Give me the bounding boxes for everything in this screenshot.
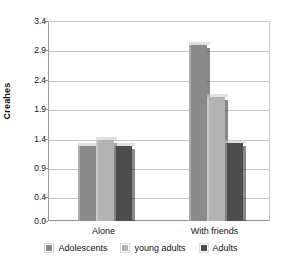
bar-chart: Creahes 0.00.40.91.41.92.42.93.4 AloneWi… [0,0,282,264]
legend-label: Adolescents [58,243,107,253]
y-axis-tick-label: 2.4 [18,76,46,85]
bar-side-shadow [243,146,246,221]
bar-highlight [114,146,116,221]
y-axis-tick-mark [44,221,48,222]
y-axis-tick-label: 1.4 [18,135,46,144]
y-axis-tick-label: 3.4 [18,17,46,26]
y-axis-title: Creahes [2,71,12,131]
bar-highlight [225,143,227,221]
y-axis-tick-label: 0.9 [18,164,46,173]
bar-highlight [189,45,191,221]
chart-legend: Adolescentsyoung adultsAdults [0,243,282,253]
bar-body [114,146,132,221]
bar-body [96,140,114,221]
bar [189,45,207,221]
bars-layer [49,22,269,221]
legend-color-swatch [120,243,130,253]
bar-highlight [78,146,80,221]
legend-color-swatch [44,243,54,253]
legend-item[interactable]: young adults [120,243,185,253]
legend-color-swatch [199,243,209,253]
bar-highlight [207,97,209,221]
bar [114,146,132,221]
y-axis-tick-label: 2.9 [18,46,46,55]
bar-body [78,146,96,221]
legend-item[interactable]: Adults [199,243,238,253]
x-axis-category-label: With friends [165,226,265,236]
bar [207,97,225,221]
bar [225,143,243,221]
bar-body [189,45,207,221]
legend-label: young adults [134,243,185,253]
bar [96,140,114,221]
legend-label: Adults [213,243,238,253]
x-axis-category-label: Alone [54,226,154,236]
y-axis-tick-label: 0.4 [18,193,46,202]
bar-side-shadow [132,149,135,221]
legend-item[interactable]: Adolescents [44,243,107,253]
y-axis-tick-label: 0.0 [18,217,46,226]
bar-highlight [96,140,98,221]
bar-body [225,143,243,221]
y-axis-tick-label: 1.9 [18,105,46,114]
bar-body [207,97,225,221]
bar [78,146,96,221]
